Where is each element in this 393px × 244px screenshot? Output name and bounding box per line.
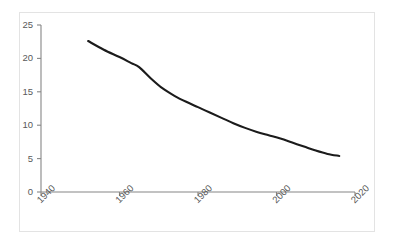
chart-figure: 0510152025 19401960198020002020 bbox=[0, 0, 393, 244]
x-axis: 19401960198020002020 bbox=[34, 182, 371, 205]
y-tick-label: 10 bbox=[22, 119, 33, 130]
y-tick-label: 25 bbox=[22, 19, 33, 30]
x-tick-label: 1940 bbox=[34, 182, 57, 205]
chart-canvas: 0510152025 19401960198020002020 bbox=[0, 0, 393, 244]
y-tick-label: 5 bbox=[28, 153, 33, 164]
y-axis: 0510152025 bbox=[22, 19, 41, 197]
data-series-group bbox=[88, 41, 339, 156]
x-tick-label: 2020 bbox=[348, 182, 371, 205]
x-tick-label: 1980 bbox=[191, 182, 214, 205]
x-tick-label: 2000 bbox=[270, 182, 293, 205]
y-tick-label: 15 bbox=[22, 86, 33, 97]
y-tick-label: 0 bbox=[28, 186, 33, 197]
y-tick-label: 20 bbox=[22, 52, 33, 63]
x-tick-label: 1960 bbox=[113, 182, 136, 205]
series-line bbox=[88, 41, 339, 156]
